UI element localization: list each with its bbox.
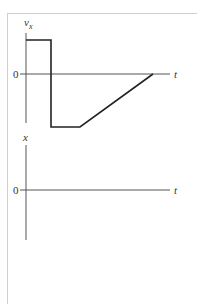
x-graph: x 0 t bbox=[13, 131, 178, 240]
vx-zero-label: 0 bbox=[13, 68, 19, 80]
x-zero-label: 0 bbox=[13, 184, 19, 196]
vx-graph: vx 0 t bbox=[13, 16, 178, 127]
kinematics-diagram: vx 0 t x 0 t bbox=[0, 0, 197, 304]
vx-axis-label: vx bbox=[24, 16, 33, 31]
vx-t-label: t bbox=[174, 68, 178, 80]
x-t-label: t bbox=[174, 184, 178, 196]
vx-trace bbox=[26, 40, 153, 127]
x-axis-label: x bbox=[22, 131, 28, 143]
